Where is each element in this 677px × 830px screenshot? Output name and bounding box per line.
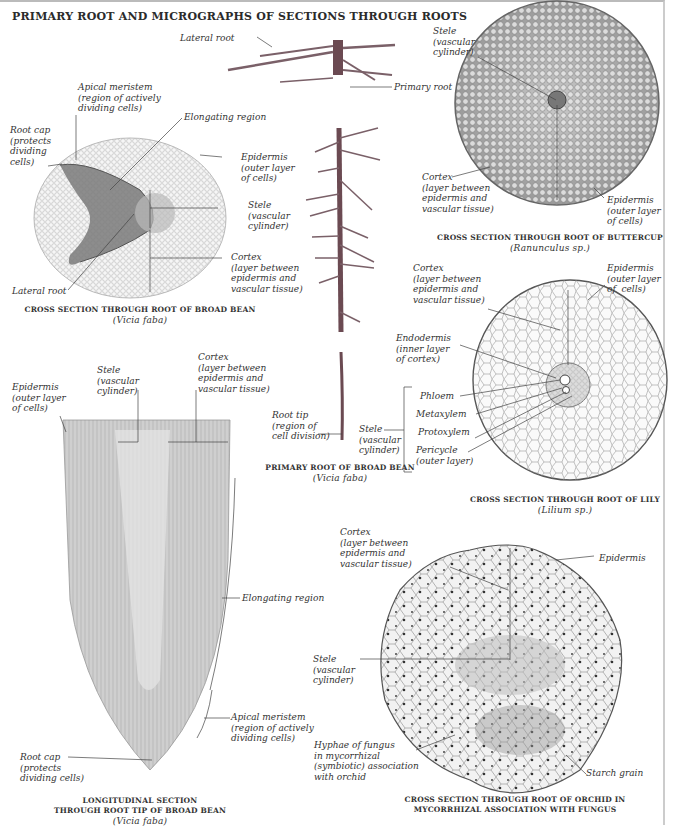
orchid-hyphae-label: Hyphae of fungus in mycorrhizal (symbiot… bbox=[314, 740, 419, 782]
bb-epidermis-label: Epidermis (outer layer of cells) bbox=[241, 152, 295, 184]
species-name: (Ranunculus sp.) bbox=[430, 243, 670, 253]
orchid-cortex-label: Cortex (layer between epidermis and vasc… bbox=[340, 527, 412, 569]
species-name: (Lilium sp.) bbox=[455, 505, 675, 515]
lily-stele-label: Stele (vascular cylinder) bbox=[359, 424, 401, 456]
bc-epidermis-label: Epidermis (outer layer of cells) bbox=[607, 195, 661, 227]
bb-elongating-label: Elongating region bbox=[184, 112, 266, 123]
species-name: (Vicia faba) bbox=[40, 816, 240, 826]
bb-stele-label: Stele (vascular cylinder) bbox=[248, 200, 290, 232]
lily-protoxylem-label: Protoxylem bbox=[418, 427, 470, 438]
species-name: (Vicia faba) bbox=[20, 315, 260, 325]
lily-phloem-label: Phloem bbox=[420, 391, 454, 402]
pr-caption: PRIMARY ROOT OF BROAD BEAN (Vicia faba) bbox=[245, 463, 435, 483]
caption-text: CROSS SECTION THROUGH ROOT OF LILY bbox=[470, 495, 660, 504]
broad-bean-cross-section-image bbox=[34, 138, 226, 298]
orchid-epidermis-label: Epidermis bbox=[599, 553, 646, 564]
caption-text: CROSS SECTION THROUGH ROOT OF BROAD BEAN bbox=[24, 305, 255, 314]
lily-metaxylem-label: Metaxylem bbox=[416, 409, 466, 420]
long-stele-label: Stele (vascular cylinder) bbox=[97, 365, 139, 397]
bb-cortex-label: Cortex (layer between epidermis and vasc… bbox=[231, 252, 303, 294]
bc-caption: CROSS SECTION THROUGH ROOT OF BUTTERCUP … bbox=[430, 233, 670, 253]
lily-cross-section-image bbox=[473, 280, 667, 480]
long-apical-meristem-label: Apical meristem (region of actively divi… bbox=[231, 712, 314, 744]
lily-pericycle-label: Pericycle (outer layer) bbox=[416, 445, 473, 466]
bb-cross-caption: CROSS SECTION THROUGH ROOT OF BROAD BEAN… bbox=[20, 305, 260, 325]
primary-root-leader-lines bbox=[257, 37, 392, 434]
lily-cortex-label: Cortex (layer between epidermis and vasc… bbox=[413, 263, 485, 305]
bb-root-cap-label: Root cap (protects dividing cells) bbox=[10, 125, 51, 167]
pr-primary-root-label: Primary root bbox=[394, 82, 452, 93]
bc-cortex-label: Cortex (layer between epidermis and vasc… bbox=[422, 172, 494, 214]
lily-caption: CROSS SECTION THROUGH ROOT OF LILY (Lili… bbox=[455, 495, 675, 515]
lily-epidermis-label: Epidermis (outer layer of cells) bbox=[607, 263, 661, 295]
long-epidermis-label: Epidermis (outer layer of cells) bbox=[12, 382, 66, 414]
long-cortex-label: Cortex (layer between epidermis and vasc… bbox=[198, 352, 270, 394]
orchid-starch-label: Starch grain bbox=[586, 768, 643, 779]
pr-lateral-root-label: Lateral root bbox=[180, 33, 234, 44]
pr-root-tip-label: Root tip (region of cell division) bbox=[272, 410, 330, 442]
long-root-cap-label: Root cap (protects dividing cells) bbox=[20, 752, 84, 784]
longitudinal-section-image bbox=[63, 420, 230, 770]
orchid-caption: CROSS SECTION THROUGH ROOT OF ORCHID IN … bbox=[385, 785, 645, 815]
long-elongating-label: Elongating region bbox=[242, 593, 324, 604]
bb-lateral-root-label: Lateral root bbox=[12, 286, 66, 297]
species-name: (Vicia faba) bbox=[245, 473, 435, 483]
caption-text: CROSS SECTION THROUGH ROOT OF BUTTERCUP bbox=[437, 233, 663, 242]
lily-endodermis-label: Endodermis (inner layer of cortex) bbox=[396, 333, 451, 365]
caption-text: CROSS SECTION THROUGH ROOT OF ORCHID IN … bbox=[405, 795, 626, 814]
bc-stele-label: Stele (vascular cylinder) bbox=[433, 26, 475, 58]
caption-text: LONGITUDINAL SECTION THROUGH ROOT TIP OF… bbox=[54, 796, 226, 815]
long-caption: LONGITUDINAL SECTION THROUGH ROOT TIP OF… bbox=[40, 786, 240, 830]
caption-text: PRIMARY ROOT OF BROAD BEAN bbox=[265, 463, 414, 472]
orchid-stele-label: Stele (vascular cylinder) bbox=[313, 654, 355, 686]
bb-apical-meristem-label: Apical meristem (region of actively divi… bbox=[78, 82, 161, 114]
